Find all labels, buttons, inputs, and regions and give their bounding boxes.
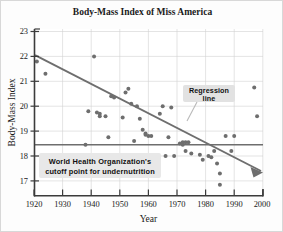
scatter-point [35,59,39,63]
scatter-point [124,91,128,95]
scatter-point [255,114,259,118]
scatter-point [172,154,176,158]
scatter-point [215,161,219,165]
scatter-point [43,72,47,76]
y-tick-label-18: 18 [20,152,28,161]
y-tick-label-20: 20 [20,102,28,111]
who-annotation-line2: cutoff point for undernutrition [45,167,155,176]
scatter-point [252,86,256,90]
scatter-point [169,105,173,109]
chart-figure: Body-Mass Index of Miss America [0,0,283,232]
x-tick-label-1930: 1930 [54,200,71,209]
scatter-point [141,128,145,132]
x-tick-label-1950: 1950 [111,200,128,209]
scatter-point [106,135,110,139]
x-tick-label-1960: 1960 [140,200,157,209]
scatter-point [104,114,108,118]
x-tick-label-2000: 2000 [254,200,271,209]
x-tick-label-1920: 1920 [26,200,43,209]
y-tick-label-17: 17 [20,177,28,186]
regression-callout-line2: line [203,94,216,103]
y-axis-title: Body-Mass Index [7,78,17,146]
scatter-point [229,149,233,153]
scatter-point [83,143,87,147]
scatter-point [149,134,153,138]
x-tick-labels: 1920 1930 1940 1950 1960 1970 1980 1990 … [26,200,271,209]
y-tick-label-23: 23 [20,27,28,36]
scatter-point [129,102,133,106]
scatter-point [135,104,139,108]
scatter-point [201,158,205,162]
scatter-point [112,95,116,99]
chart-title: Body-Mass Index of Miss America [73,7,213,17]
scatter-point [198,153,202,157]
x-axis-title: Year [140,214,158,224]
x-tick-label-1970: 1970 [169,200,186,209]
y-tick-label-19: 19 [20,127,28,136]
scatter-point [166,135,170,139]
scatter-point [232,134,236,138]
bmi-scatter-chart: Body-Mass Index of Miss America [1,1,283,232]
scatter-point [132,139,136,143]
who-annotation-line1: World Health Organization's [49,157,152,166]
scatter-point [126,87,130,91]
scatter-point [86,109,90,113]
scatter-point [189,152,193,156]
y-tick-label-21: 21 [20,77,28,86]
x-tick-label-1940: 1940 [83,200,100,209]
scatter-point [121,115,125,119]
x-tick-label-1980: 1980 [197,200,214,209]
scatter-point [186,140,190,144]
scatter-point [212,149,216,153]
who-cutoff-annotation: World Health Organization's cutoff point… [39,153,161,178]
scatter-point [209,155,213,159]
scatter-point [224,134,228,138]
y-tick-label-22: 22 [20,52,28,61]
scatter-point [98,114,102,118]
scatter-point [164,154,168,158]
scatter-point [92,54,96,58]
scatter-point [138,117,142,121]
x-tick-label-1990: 1990 [226,200,243,209]
scatter-point [218,183,222,187]
scatter-point [161,104,165,108]
y-tick-labels: 23 22 21 20 19 18 17 [20,27,28,185]
scatter-point [184,149,188,153]
scatter-point [218,171,222,175]
scatter-point [158,112,162,116]
